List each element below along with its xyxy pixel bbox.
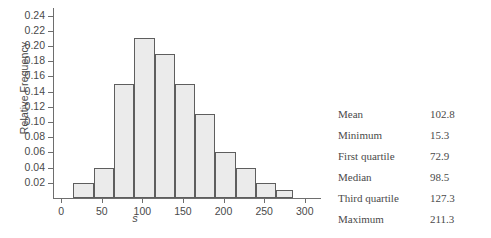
x-axis-tick: 150 [183, 198, 184, 203]
y-axis-tick: 0.02 [48, 183, 53, 184]
stat-value: 15.3 [430, 125, 490, 146]
y-axis-tick: 0.08 [48, 137, 53, 138]
y-axis-tick: 0.20 [48, 46, 53, 47]
y-axis-tick: 0.10 [48, 122, 53, 123]
histogram-bar [94, 168, 114, 198]
y-axis-tick-label: 0.10 [25, 115, 45, 127]
x-axis-tick: 250 [264, 198, 265, 203]
y-axis-tick: 0.18 [48, 61, 53, 62]
y-axis-tick: 0.16 [48, 76, 53, 77]
x-axis-line [53, 198, 321, 199]
histogram-bar [155, 54, 175, 198]
histogram-figure: Relative Frequency 0.020.040.060.080.100… [0, 0, 340, 238]
histogram-bar [236, 168, 256, 198]
stat-row: Maximum211.3 [338, 209, 490, 230]
y-axis-line [53, 8, 54, 198]
x-axis-tick-label: 300 [296, 205, 314, 217]
x-axis-tick: 300 [305, 198, 306, 203]
histogram-bar [276, 190, 292, 198]
y-axis-tick: 0.14 [48, 92, 53, 93]
y-axis-tick-label: 0.14 [25, 85, 45, 97]
stat-row: Minimum15.3 [338, 125, 490, 146]
x-axis-tick: 100 [142, 198, 143, 203]
summary-statistics-table: Mean102.8Minimum15.3First quartile72.9Me… [338, 104, 490, 230]
stat-value: 102.8 [430, 104, 490, 125]
stat-row: Mean102.8 [338, 104, 490, 125]
y-axis-tick-label: 0.24 [25, 9, 45, 21]
y-axis-tick-label: 0.06 [25, 145, 45, 157]
plot-area: 0.020.040.060.080.100.120.140.160.180.20… [53, 8, 323, 198]
y-axis-tick-label: 0.04 [25, 161, 45, 173]
histogram-bar [256, 183, 276, 198]
y-axis-tick-label: 0.08 [25, 130, 45, 142]
y-axis-tick-label: 0.16 [25, 69, 45, 81]
y-axis-tick-label: 0.20 [25, 39, 45, 51]
stat-label: Minimum [338, 125, 430, 146]
stat-label: First quartile [338, 146, 430, 167]
x-axis-tick: 50 [102, 198, 103, 203]
stat-row: Median98.5 [338, 167, 490, 188]
y-axis-tick: 0.12 [48, 107, 53, 108]
stat-value: 72.9 [430, 146, 490, 167]
stat-label: Median [338, 167, 430, 188]
histogram-bar [175, 84, 195, 198]
y-axis-tick-label: 0.12 [25, 100, 45, 112]
stat-label: Third quartile [338, 188, 430, 209]
stat-value: 127.3 [430, 188, 490, 209]
y-axis-tick-label: 0.18 [25, 54, 45, 66]
stat-row: First quartile72.9 [338, 146, 490, 167]
stat-row: Third quartile127.3 [338, 188, 490, 209]
x-axis-label: s [0, 212, 270, 224]
y-axis-tick: 0.22 [48, 31, 53, 32]
y-axis-tick-label: 0.22 [25, 24, 45, 36]
figure-page: Relative Frequency 0.020.040.060.080.100… [0, 0, 491, 238]
stat-value: 98.5 [430, 167, 490, 188]
histogram-bar [215, 152, 235, 198]
x-axis-tick: 0 [61, 198, 62, 203]
histogram-bar [134, 38, 154, 198]
y-axis-tick: 0.06 [48, 152, 53, 153]
y-axis-tick: 0.24 [48, 16, 53, 17]
histogram-bar [195, 114, 215, 198]
x-axis-tick: 200 [224, 198, 225, 203]
y-axis-tick: 0.04 [48, 168, 53, 169]
histogram-bar [73, 183, 93, 198]
stat-value: 211.3 [430, 209, 490, 230]
stat-label: Maximum [338, 209, 430, 230]
histogram-bar [114, 84, 134, 198]
stat-label: Mean [338, 104, 430, 125]
y-axis-tick-label: 0.02 [25, 176, 45, 188]
